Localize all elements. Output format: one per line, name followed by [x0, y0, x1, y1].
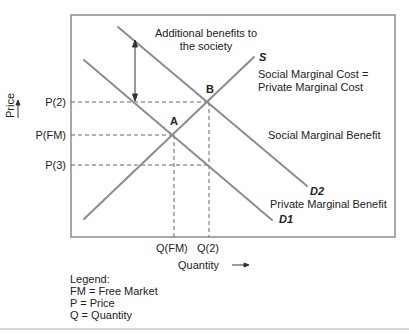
supply-curve-label: S — [259, 51, 266, 64]
d1-curve-label: D1 — [279, 213, 293, 226]
legend-title: Legend: — [70, 273, 158, 285]
point-a-label: A — [170, 115, 178, 128]
d1-description: Private Marginal Benefit — [270, 198, 387, 211]
price-tick-p2: P(2) — [20, 96, 66, 109]
quantity-tick-q2: Q(2) — [197, 242, 219, 255]
quantity-tick-qfm: Q(FM) — [156, 242, 188, 255]
legend-item-p: P = Price — [70, 297, 158, 309]
annotation-line1: Additional benefits to — [141, 27, 271, 40]
point-b-label: B — [206, 83, 214, 96]
x-axis-label: Quantity — [178, 259, 219, 272]
supply-description-line1: Social Marginal Cost = — [258, 68, 368, 81]
d2-description: Social Marginal Benefit — [268, 129, 381, 142]
legend: Legend: FM = Free Market P = Price Q = Q… — [70, 273, 158, 321]
y-axis-label: Price — [4, 93, 16, 118]
legend-item-q: Q = Quantity — [70, 309, 158, 321]
annotation-line2: the society — [141, 40, 271, 53]
additional-benefit-arrow — [133, 40, 138, 101]
price-tick-pfm: P(FM) — [20, 129, 66, 142]
price-tick-p3: P(3) — [20, 159, 66, 172]
d2-curve-label: D2 — [310, 185, 324, 198]
supply-description-line2: Private Marginal Cost — [258, 81, 363, 94]
d1-private-benefit-curve — [84, 60, 272, 220]
legend-item-fm: FM = Free Market — [70, 285, 158, 297]
